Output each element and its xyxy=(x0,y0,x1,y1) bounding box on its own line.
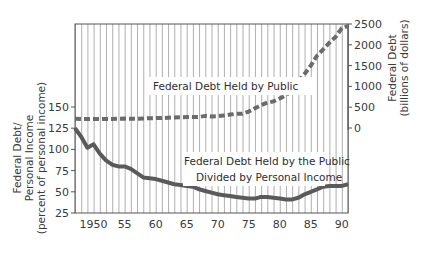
right-axis-title: Federal Debt (billions of dollars) xyxy=(386,19,410,116)
right-axis: 05001000150020002500 xyxy=(348,18,382,135)
left-tick-label: 125 xyxy=(48,122,69,135)
svg-text:(billions of dollars): (billions of dollars) xyxy=(398,19,410,116)
left-axis: 255075100125150 xyxy=(48,101,75,220)
left-tick-label: 100 xyxy=(48,143,69,156)
x-tick-label: 90 xyxy=(335,218,349,231)
svg-text:Federal Debt/: Federal Debt/ xyxy=(11,122,23,193)
left-tick-label: 150 xyxy=(48,101,69,114)
x-tick-label: 80 xyxy=(273,218,287,231)
right-tick-label: 2000 xyxy=(354,39,382,52)
left-axis-title: Federal Debt/ Personal Income (percent o… xyxy=(11,82,47,234)
svg-text:Federal Debt: Federal Debt xyxy=(386,34,398,101)
debt-annotation-text: Federal Debt Held by Public xyxy=(153,80,299,92)
right-tick-label: 0 xyxy=(354,122,361,135)
ratio-annotation-line1: Federal Debt Held by the Public xyxy=(184,155,350,167)
left-tick-label: 25 xyxy=(55,207,69,220)
right-tick-label: 1500 xyxy=(354,60,382,73)
right-tick-label: 1000 xyxy=(354,80,382,93)
debt-chart: 255075100125150 05001000150020002500 195… xyxy=(0,0,424,260)
left-tick-label: 50 xyxy=(55,186,69,199)
x-tick-label: 65 xyxy=(180,218,194,231)
x-tick-label: 55 xyxy=(118,218,132,231)
right-tick-label: 2500 xyxy=(354,18,382,31)
svg-text:(percent of personal income): (percent of personal income) xyxy=(35,82,47,234)
x-tick-label: 70 xyxy=(211,218,225,231)
x-axis: 19505560657075808590 xyxy=(80,218,349,231)
x-tick-label: 75 xyxy=(242,218,256,231)
x-tick-label: 85 xyxy=(304,218,318,231)
right-tick-label: 500 xyxy=(354,101,375,114)
left-tick-label: 75 xyxy=(55,165,69,178)
ratio-annotation: Federal Debt Held by the Public Divided … xyxy=(183,152,350,186)
svg-text:Personal Income: Personal Income xyxy=(23,115,35,202)
ratio-annotation-line2: Divided by Personal Income xyxy=(196,171,342,183)
debt-held-by-public-line xyxy=(75,26,348,119)
x-tick-label: 1950 xyxy=(80,218,108,231)
x-tick-label: 60 xyxy=(149,218,163,231)
debt-annotation: Federal Debt Held by Public xyxy=(147,77,315,95)
